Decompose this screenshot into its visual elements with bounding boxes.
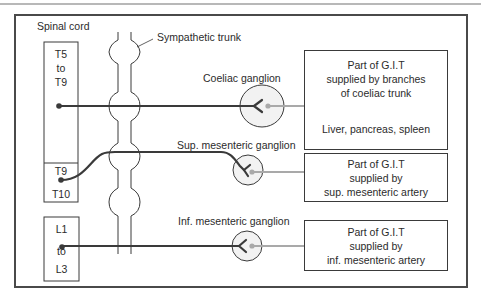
target-line: of coeliac trunk	[305, 86, 447, 100]
sympathetic-trunk	[109, 32, 140, 254]
inf-mesenteric-ganglion-label: Inf. mesenteric ganglion	[178, 215, 289, 227]
coeliac-ganglion-label: Coeliac ganglion	[203, 72, 281, 84]
segment-start: L1	[44, 222, 79, 236]
cord-segment-t9: T9	[44, 164, 78, 178]
target-line: sup. mesenteric artery	[305, 185, 447, 199]
preganglionic-fibres	[59, 100, 262, 252]
ganglion-cell-dot	[265, 103, 270, 108]
target-box-inf-mesenteric: Part of G.I.T supplied by inf. mesenteri…	[304, 220, 448, 271]
ganglion-cell-dot	[249, 243, 254, 248]
target-line: Part of G.I.T	[305, 58, 447, 72]
spinal-cord-label: Spinal cord	[37, 20, 90, 32]
neuron-dot-t9-t10	[58, 177, 64, 183]
target-line: inf. mesenteric artery	[305, 253, 447, 267]
sup-mesenteric-ganglion-label: Sup. mesenteric ganglion	[177, 139, 296, 151]
cord-segment-lumbar: L1 to L3	[44, 222, 79, 276]
ganglion-cell-dot	[249, 169, 254, 174]
neuron-dot-thoracic	[56, 103, 62, 109]
segment-to: to	[44, 61, 78, 75]
target-line: supplied by branches	[305, 72, 447, 86]
segment-to: to	[44, 244, 79, 258]
target-box-coeliac: Part of G.I.T supplied by branches of co…	[304, 50, 448, 150]
segment-end: L3	[44, 262, 79, 276]
trunk-pointer	[137, 39, 153, 47]
target-box-sup-mesenteric: Part of G.I.T supplied by sup. mesenteri…	[304, 153, 448, 202]
target-line: supplied by	[305, 171, 447, 185]
sympathetic-trunk-label: Sympathetic trunk	[157, 31, 241, 43]
target-line: Part of G.I.T	[305, 157, 447, 171]
target-line: Part of G.I.T	[305, 225, 447, 239]
target-line: supplied by	[305, 239, 447, 253]
target-organs: Liver, pancreas, spleen	[305, 122, 447, 136]
segment-end: T9	[44, 75, 78, 89]
segment-start: T5	[44, 47, 78, 61]
sup-mesenteric-ganglion-icon	[233, 155, 263, 185]
cord-segment-t10: T10	[44, 187, 78, 201]
cord-segment-thoracic: T5 to T9	[44, 47, 78, 89]
